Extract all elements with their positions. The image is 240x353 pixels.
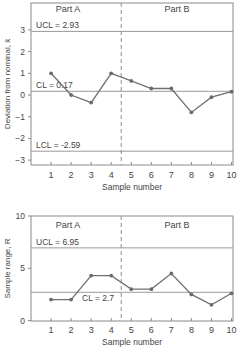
y-tick-label: 5	[20, 263, 25, 273]
plot-frame	[31, 216, 233, 321]
x-tick-label: 8	[189, 325, 194, 335]
y-tick-label: −2	[15, 133, 25, 143]
x-tick-label: 4	[109, 170, 114, 180]
data-point	[89, 274, 93, 278]
data-point	[109, 274, 113, 278]
x-tick-label: 9	[209, 170, 214, 180]
data-point	[49, 71, 53, 75]
x-tick-label: 2	[69, 325, 74, 335]
part-b-label: Part B	[164, 4, 189, 14]
x-tick-label: 7	[169, 170, 174, 180]
x-tick-label: 6	[149, 170, 154, 180]
y-tick-label: 0	[20, 90, 25, 100]
part-b-label: Part B	[164, 220, 189, 230]
data-series-line	[51, 274, 232, 305]
x-tick-label: 3	[89, 325, 94, 335]
chart-xbar: −3−2−1012312345678910Sample numberDeviat…	[3, 3, 237, 192]
y-tick-label: 1	[20, 68, 25, 78]
data-point	[129, 287, 133, 291]
data-point	[230, 291, 234, 295]
data-point	[169, 272, 173, 276]
x-tick-label: 5	[129, 325, 134, 335]
x-tick-label: 10	[226, 170, 236, 180]
ucl-label: UCL = 6.95	[36, 237, 79, 247]
data-point	[190, 110, 194, 114]
x-tick-label: 1	[49, 170, 54, 180]
data-point	[169, 87, 173, 91]
lcl-label: LCL = -2.59	[36, 140, 81, 150]
y-axis-label: Sample range, R	[3, 238, 12, 298]
data-point	[109, 71, 113, 75]
chart-range: 051012345678910Sample numberSample range…	[3, 211, 237, 347]
x-tick-label: 7	[169, 325, 174, 335]
y-tick-label: −1	[15, 112, 25, 122]
data-point	[89, 101, 93, 105]
x-tick-label: 9	[209, 325, 214, 335]
data-point	[210, 303, 214, 307]
x-tick-label: 1	[49, 325, 54, 335]
control-charts: −3−2−1012312345678910Sample numberDeviat…	[0, 0, 240, 353]
part-a-label: Part A	[56, 4, 81, 14]
data-point	[69, 93, 73, 97]
y-tick-label: 0	[20, 316, 25, 326]
part-a-label: Part A	[56, 220, 81, 230]
data-point	[190, 292, 194, 296]
x-tick-label: 2	[69, 170, 74, 180]
y-tick-label: 10	[16, 211, 26, 221]
data-series-line	[51, 73, 232, 112]
x-tick-label: 6	[149, 325, 154, 335]
data-point	[129, 79, 133, 83]
y-tick-label: −3	[15, 155, 25, 165]
ucl-label: UCL = 2.93	[36, 20, 79, 30]
data-point	[149, 287, 153, 291]
data-point	[149, 87, 153, 91]
data-point	[49, 298, 53, 302]
cl-label: CL = 2.7	[82, 293, 114, 303]
data-point	[230, 90, 234, 94]
x-tick-label: 10	[226, 325, 236, 335]
x-tick-label: 3	[89, 170, 94, 180]
y-tick-label: 2	[20, 47, 25, 57]
y-tick-label: 3	[20, 25, 25, 35]
x-tick-label: 8	[189, 170, 194, 180]
cl-label: CL = 0.17	[36, 80, 73, 90]
data-point	[210, 95, 214, 99]
chart-canvas: −3−2−1012312345678910Sample numberDeviat…	[0, 0, 240, 353]
x-axis-label: Sample number	[102, 182, 162, 192]
x-tick-label: 5	[129, 170, 134, 180]
x-axis-label: Sample number	[102, 337, 162, 347]
y-axis-label: Deviation from nominal, x̄	[3, 39, 12, 129]
x-tick-label: 4	[109, 325, 114, 335]
data-point	[69, 298, 73, 302]
